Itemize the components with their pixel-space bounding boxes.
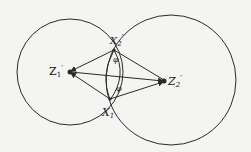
point-x2 <box>112 48 115 51</box>
label-z1: Z1′ <box>49 63 63 79</box>
angle-label-top: φ <box>113 55 119 64</box>
two-circles-diagram: Z1′ Z2′ X2′ X1 φ φ <box>0 0 251 152</box>
label-z2: Z2′ <box>167 73 182 89</box>
point-z1 <box>68 70 73 75</box>
point-x1 <box>108 97 111 100</box>
vector-z1-z2 <box>71 72 163 81</box>
vector-x1-z1 <box>71 73 110 99</box>
point-z2 <box>162 79 167 84</box>
angle-label-bottom: φ <box>116 84 122 93</box>
label-x2: X2′ <box>109 32 124 48</box>
vector-x2-z2 <box>114 50 164 80</box>
